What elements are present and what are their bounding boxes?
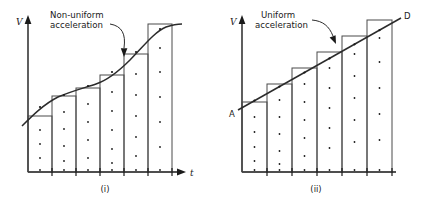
fill-dot — [329, 67, 331, 69]
curve-dot — [378, 29, 380, 31]
x-axis-arrowhead-icon — [177, 169, 186, 176]
y-axis-arrowhead-icon — [25, 15, 32, 24]
fill-dot — [304, 169, 306, 171]
fill-dot — [87, 121, 89, 123]
x-axis-label-i: t — [190, 168, 194, 178]
fill-dot — [135, 136, 137, 138]
fill-dot — [159, 47, 161, 49]
panel-uniform-acceleration: V — [211, 0, 422, 198]
leader-arrowhead-icon — [121, 48, 128, 57]
fill-dot — [354, 75, 356, 77]
annotation-leader-ii — [312, 20, 336, 44]
fill-dot — [159, 169, 161, 171]
curve-dot — [353, 43, 355, 45]
fill-dot — [39, 157, 41, 159]
curve-dot — [39, 106, 41, 108]
fill-dot — [159, 121, 161, 123]
fill-dot — [329, 127, 331, 129]
fill-dot — [254, 116, 256, 118]
annotation-leader-i — [110, 24, 127, 57]
y-axis-label-i: V — [16, 17, 24, 27]
point-label-a: A — [229, 109, 235, 119]
curve-dot — [87, 85, 89, 87]
fill-dot — [279, 169, 281, 171]
fill-dot — [39, 169, 41, 171]
uniform-acceleration-line — [238, 18, 401, 110]
fill-dot — [87, 169, 89, 171]
fill-dot — [254, 160, 256, 162]
annotation-line1-i: Non-uniform — [50, 10, 104, 20]
y-axis-label-ii: V — [230, 17, 238, 27]
fill-dot — [279, 133, 281, 135]
fill-dot — [379, 139, 381, 141]
y-axis-arrowhead-icon — [239, 15, 246, 24]
fill-dot — [254, 169, 256, 171]
fill-dot — [254, 131, 256, 133]
fill-dot — [39, 129, 41, 131]
fill-dot — [304, 119, 306, 121]
fill-dot — [87, 103, 89, 105]
fill-dot — [111, 129, 113, 131]
bar-rect — [367, 20, 392, 172]
fill-dot — [159, 146, 161, 148]
curve-dot — [253, 100, 255, 102]
panel-caption-ii: (ii) — [310, 184, 321, 194]
bar-rect — [342, 36, 367, 172]
fill-dot — [379, 169, 381, 171]
fill-dot — [304, 101, 306, 103]
panel-non-uniform-acceleration: V t — [0, 0, 211, 198]
curve-dot — [278, 86, 280, 88]
fill-dot — [135, 155, 137, 157]
fill-dot — [379, 87, 381, 89]
fill-dot — [304, 155, 306, 157]
fill-dot — [329, 87, 331, 89]
fill-dot — [159, 71, 161, 73]
curve-dot — [111, 71, 113, 73]
fill-dot — [354, 97, 356, 99]
fill-dot — [354, 141, 356, 143]
physics-figure-velocity-time-graphs: V t — [0, 0, 422, 198]
fill-dot — [111, 110, 113, 112]
curve-dot — [328, 57, 330, 59]
annotation-line1-ii: Uniform — [261, 10, 295, 20]
fill-dot — [379, 61, 381, 63]
fill-dot — [304, 137, 306, 139]
fill-dot — [329, 107, 331, 109]
bar-rect — [267, 84, 292, 172]
fill-dot — [329, 169, 331, 171]
fill-dot — [63, 111, 65, 113]
bar-rect — [317, 52, 342, 172]
fill-dot — [111, 91, 113, 93]
curve-dot — [63, 94, 65, 96]
curve-dot — [303, 71, 305, 73]
fill-dot — [304, 83, 306, 85]
fill-dot — [135, 115, 137, 117]
fill-dot — [63, 160, 65, 162]
fill-dot — [159, 96, 161, 98]
fill-dot — [63, 128, 65, 130]
bar-rect — [124, 54, 148, 172]
fill-dot — [87, 157, 89, 159]
fill-dot — [354, 53, 356, 55]
fill-dot — [111, 169, 113, 171]
fill-dot — [354, 169, 356, 171]
fill-dot — [39, 143, 41, 145]
fill-dot — [111, 162, 113, 164]
fill-dot — [63, 145, 65, 147]
bar-group-i — [28, 24, 172, 172]
bar-group-ii — [242, 20, 392, 172]
fill-dot — [254, 146, 256, 148]
fill-dot — [379, 113, 381, 115]
fill-dot — [279, 163, 281, 165]
curve-dot — [159, 28, 161, 30]
curve-dot — [135, 51, 137, 53]
fill-dot — [135, 73, 137, 75]
annotation-line2-ii: acceleration — [255, 20, 308, 30]
fill-dot — [279, 116, 281, 118]
leader-arrowhead-icon — [330, 35, 336, 44]
fill-dot — [87, 139, 89, 141]
fill-dot — [135, 94, 137, 96]
bar-rect — [100, 75, 124, 172]
fill-dot — [379, 37, 381, 39]
fill-dot — [279, 99, 281, 101]
